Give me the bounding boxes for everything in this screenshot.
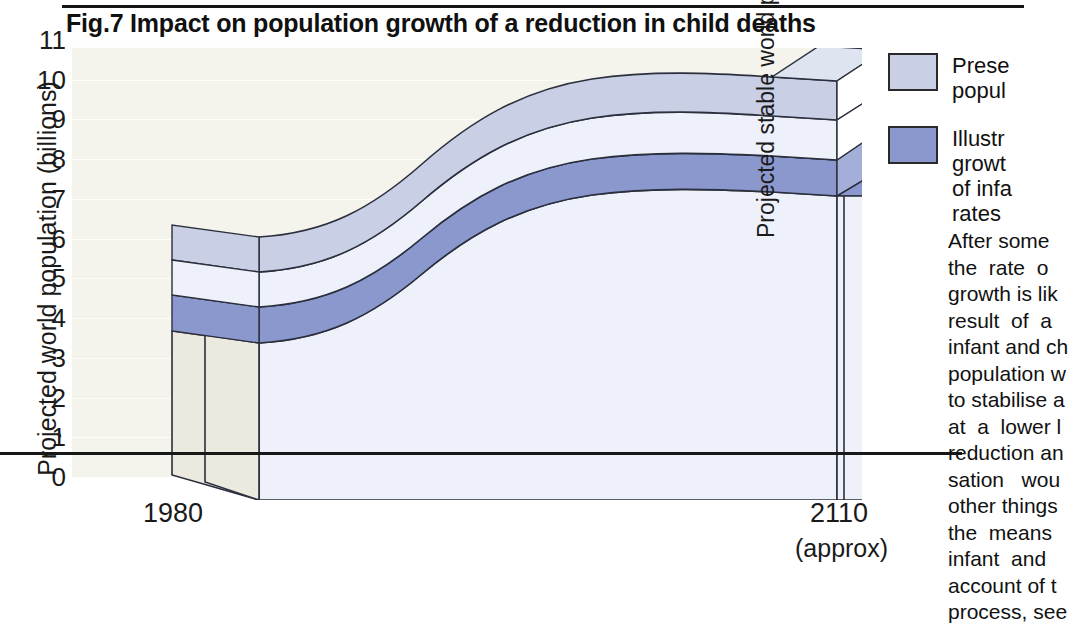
y-tick-8: 8	[52, 146, 66, 172]
x-tick-2110: 2110	[810, 498, 868, 529]
legend-swatch-illustrative-growth	[888, 126, 938, 164]
y-tick-4: 4	[52, 305, 66, 331]
page-title: Fig.7 Impact on population growth of a r…	[66, 9, 1056, 38]
y-tick-7: 7	[52, 186, 66, 212]
y-tick-10: 10	[37, 67, 66, 93]
y-tick-1: 1	[52, 424, 66, 450]
title-rule	[62, 5, 1024, 8]
stable-population-annotation: Projected stable world population	[753, 0, 780, 238]
population-area-chart	[72, 48, 862, 500]
legend-item-illustrative-growth: Illustr growt of infa rates	[888, 126, 1012, 226]
legend-item-present-population: Prese popul	[888, 53, 1009, 103]
legend-label-illustrative-growth: Illustr growt of infa rates	[952, 126, 1012, 226]
y-tick-0: 0	[52, 464, 66, 490]
chart-plot-area: Projected stable world population	[72, 48, 862, 500]
y-tick-9: 9	[52, 106, 66, 132]
y-tick-11: 11	[39, 27, 66, 53]
y-tick-2: 2	[52, 385, 66, 411]
y-tick-5: 5	[52, 265, 66, 291]
block-left-side-face-2	[205, 335, 259, 500]
x-axis-line	[0, 452, 962, 455]
legend-swatch-present-population	[888, 53, 938, 91]
y-tick-6: 6	[52, 226, 66, 252]
x-tick-approx-note: (approx)	[795, 534, 888, 563]
gridline-11	[72, 40, 862, 41]
x-tick-1980: 1980	[143, 498, 203, 529]
legend-label-present-population: Prese popul	[952, 53, 1009, 103]
side-note-text: After some the rate o growth is lik resu…	[948, 228, 1068, 626]
y-axis-ticks: 11109876543210	[24, 40, 66, 477]
legend-and-note-column: Prese popul Illustr growt of infa rates …	[888, 48, 1040, 548]
y-tick-3: 3	[52, 345, 66, 371]
